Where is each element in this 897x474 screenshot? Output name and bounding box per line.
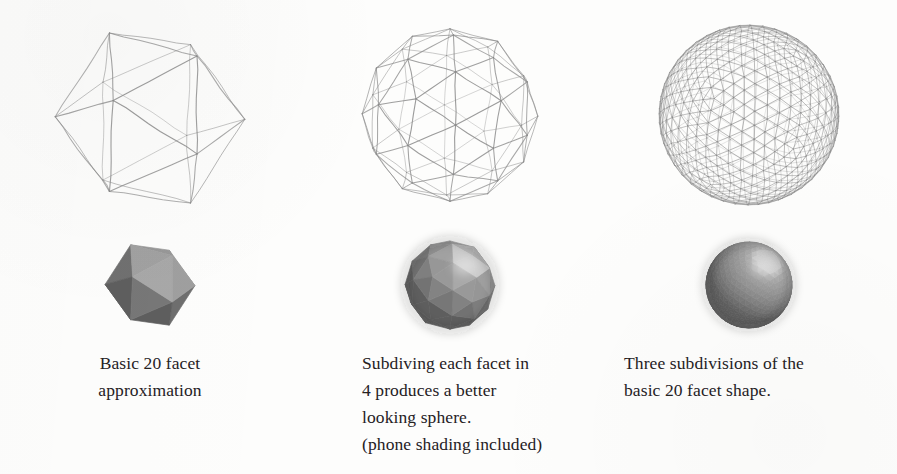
caption-three-subdivisions: Three subdivisions of the basic 20 facet…: [624, 350, 894, 404]
caption-line: (phone shading included): [362, 431, 602, 458]
caption-line: looking sphere.: [362, 404, 602, 431]
geodesic-sphere-1-solid-slot: [300, 236, 600, 334]
icosahedron-shaded-solid: [85, 236, 215, 334]
caption-line: 4 produces a better: [362, 377, 602, 404]
caption-line: Basic 20 facet: [0, 350, 300, 377]
icosahedron-wireframe-slot: [0, 18, 300, 228]
figure-page: Basic 20 facet approximation Subdiving e…: [0, 0, 897, 474]
icosahedron-solid-slot: [0, 236, 300, 334]
caption-one-subdivision: Subdiving each facet in 4 produces a bet…: [362, 350, 602, 458]
geodesic-sphere-shaded-solid-3: [684, 236, 814, 334]
caption-line: basic 20 facet shape.: [624, 377, 894, 404]
geodesic-sphere-shaded-solid-1: [385, 236, 515, 334]
caption-line: Three subdivisions of the: [624, 350, 894, 377]
geodesic-sphere-wireframe-3: [649, 18, 849, 218]
figure-column-basic-20-facet: Basic 20 facet approximation: [0, 0, 300, 474]
figure-column-one-subdivision: Subdiving each facet in 4 produces a bet…: [300, 0, 600, 474]
geodesic-sphere-wireframe-1: [350, 18, 550, 218]
caption-line: Subdiving each facet in: [362, 350, 602, 377]
geodesic-sphere-3-wireframe-slot: [600, 18, 897, 228]
icosahedron-wireframe: [35, 18, 265, 228]
caption-line: approximation: [0, 377, 300, 404]
figure-column-three-subdivisions: Three subdivisions of the basic 20 facet…: [600, 0, 897, 474]
geodesic-sphere-1-wireframe-slot: [300, 18, 600, 228]
caption-basic-20-facet: Basic 20 facet approximation: [0, 350, 300, 404]
geodesic-sphere-3-solid-slot: [600, 236, 897, 334]
